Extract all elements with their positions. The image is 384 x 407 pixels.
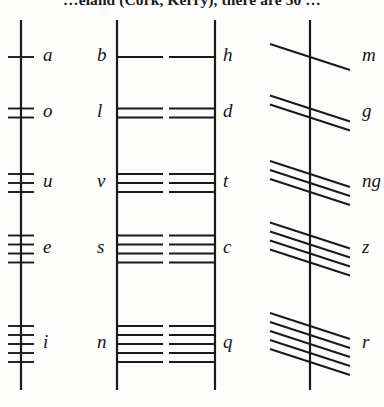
ogham-column-b-group xyxy=(117,20,163,390)
ogham-column-vowels xyxy=(8,20,34,390)
ogham-letter-l xyxy=(117,109,163,118)
ogham-label-c: c xyxy=(223,237,231,256)
ogham-label-n: n xyxy=(97,332,107,351)
ogham-label-t: t xyxy=(223,171,228,190)
ogham-label-g: g xyxy=(362,101,372,120)
ogham-label-a: a xyxy=(43,45,53,64)
ogham-letter-q xyxy=(169,326,215,362)
ogham-label-e: e xyxy=(43,237,51,256)
ogham-letter-c xyxy=(169,236,215,263)
ogham-label-z: z xyxy=(362,237,369,256)
ogham-label-l: l xyxy=(97,101,102,120)
ogham-label-s: s xyxy=(97,237,104,256)
ogham-diagram: aoueiblvsnhdtcqmgngzr xyxy=(0,0,384,407)
ogham-column-m-group xyxy=(270,20,350,390)
ogham-label-m: m xyxy=(362,45,376,64)
ogham-diagram-svg xyxy=(0,0,384,407)
ogham-letter-t xyxy=(169,174,215,192)
ogham-label-h: h xyxy=(223,45,233,64)
ogham-letter-v xyxy=(117,174,163,192)
ogham-label-q: q xyxy=(223,332,233,351)
ogham-label-d: d xyxy=(223,101,233,120)
ogham-label-r: r xyxy=(362,332,369,351)
ogham-label-ng: ng xyxy=(362,171,381,190)
ogham-letter-n xyxy=(117,326,163,362)
ogham-chart-page: …eland (Cork, Kerry), there are 30 … aou… xyxy=(0,0,384,407)
ogham-label-i: i xyxy=(43,332,48,351)
ogham-column-h-group xyxy=(169,20,215,390)
ogham-label-o: o xyxy=(43,101,53,120)
ogham-label-u: u xyxy=(43,171,53,190)
ogham-letter-s xyxy=(117,236,163,263)
ogham-label-v: v xyxy=(97,171,105,190)
ogham-letter-d xyxy=(169,109,215,118)
ogham-label-b: b xyxy=(97,45,107,64)
